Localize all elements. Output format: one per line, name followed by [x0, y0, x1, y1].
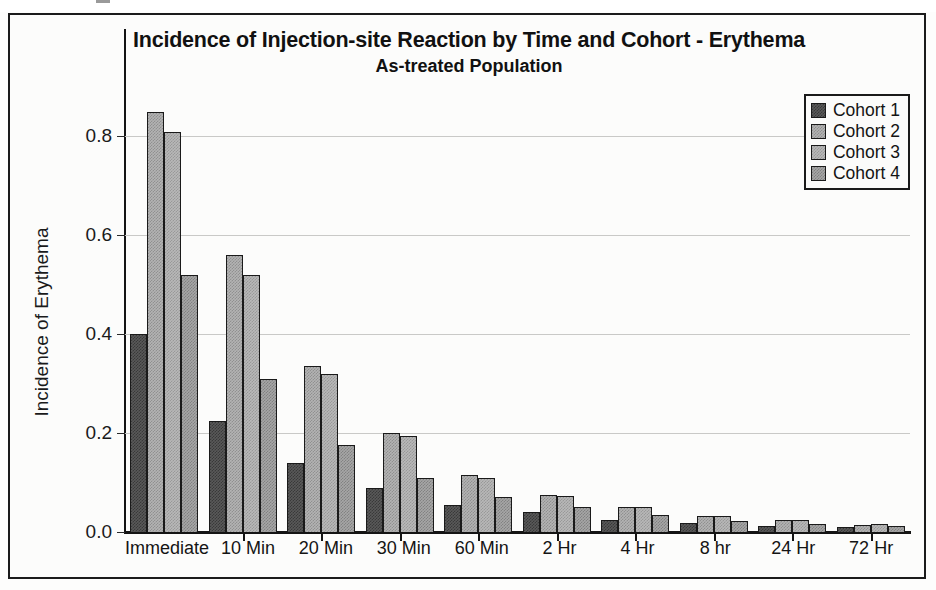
bar[interactable]	[540, 495, 557, 532]
bar[interactable]	[304, 366, 321, 532]
bar[interactable]	[495, 497, 512, 532]
legend-item[interactable]: Cohort 3	[811, 142, 900, 163]
bar[interactable]	[557, 496, 574, 532]
bar[interactable]	[243, 275, 260, 532]
bar-group	[125, 87, 204, 532]
x-axis-tick-label: 2 Hr	[521, 538, 599, 559]
bar[interactable]	[417, 478, 434, 532]
bar[interactable]	[366, 488, 383, 533]
scan-top-margin	[0, 0, 936, 12]
bar[interactable]	[854, 525, 871, 532]
bar-group	[361, 87, 440, 532]
bar[interactable]	[601, 520, 618, 532]
legend-swatch-icon	[811, 145, 826, 160]
x-axis-tick-label: 72 Hr	[832, 538, 910, 559]
bar[interactable]	[888, 526, 905, 532]
bar[interactable]	[287, 463, 304, 532]
legend-item[interactable]: Cohort 2	[811, 121, 900, 142]
x-axis-tick-labels: Immediate10 Min20 Min30 Min60 Min2 Hr4 H…	[125, 538, 910, 559]
plot-area: 0.00.20.40.60.8	[125, 87, 910, 532]
x-axis-tick-label: 24 Hr	[754, 538, 832, 559]
chart-title: Incidence of Injection-site Reaction by …	[10, 28, 928, 53]
bar-group	[596, 87, 675, 532]
x-axis-tick-label: Immediate	[125, 538, 209, 559]
legend-label: Cohort 4	[833, 163, 900, 184]
x-axis-tick-label: 20 Min	[287, 538, 365, 559]
chart-page: Incidence of Injection-site Reaction by …	[0, 0, 936, 590]
bar[interactable]	[226, 255, 243, 532]
bar[interactable]	[652, 515, 669, 532]
bar[interactable]	[731, 521, 748, 532]
title-block: Incidence of Injection-site Reaction by …	[10, 28, 928, 77]
bar[interactable]	[130, 334, 147, 532]
bar[interactable]	[478, 478, 495, 532]
bar[interactable]	[164, 132, 181, 533]
bar-groups	[125, 87, 910, 532]
x-axis-tick-label: 60 Min	[443, 538, 521, 559]
y-axis-tick-label: 0.8	[66, 125, 124, 147]
bar[interactable]	[775, 520, 792, 532]
y-axis-tick-label: 0.4	[66, 323, 124, 345]
legend-item[interactable]: Cohort 1	[811, 100, 900, 121]
bar[interactable]	[618, 507, 635, 532]
bar[interactable]	[758, 526, 775, 532]
bar-group	[675, 87, 754, 532]
bar[interactable]	[680, 523, 697, 532]
bar[interactable]	[714, 516, 731, 532]
bar[interactable]	[181, 275, 198, 532]
legend-swatch-icon	[811, 124, 826, 139]
y-axis-tick-label: 0.6	[66, 224, 124, 246]
x-axis-tick-label: 10 Min	[209, 538, 287, 559]
legend[interactable]: Cohort 1Cohort 2Cohort 3Cohort 4	[804, 94, 910, 190]
bar-group	[518, 87, 597, 532]
bar-group	[439, 87, 518, 532]
bar[interactable]	[383, 433, 400, 532]
chart-subtitle: As-treated Population	[10, 56, 928, 77]
chart-frame: Incidence of Injection-site Reaction by …	[8, 13, 926, 579]
bar[interactable]	[697, 516, 714, 532]
legend-swatch-icon	[811, 103, 826, 118]
bar-group	[282, 87, 361, 532]
legend-label: Cohort 3	[833, 142, 900, 163]
y-axis-tick-label: 0.2	[66, 422, 124, 444]
x-axis-tick-label: 4 Hr	[599, 538, 677, 559]
bar[interactable]	[209, 421, 226, 532]
bar-group	[204, 87, 283, 532]
legend-item[interactable]: Cohort 4	[811, 163, 900, 184]
bar[interactable]	[444, 505, 461, 532]
scan-artifact-tick	[96, 0, 110, 3]
bar[interactable]	[147, 112, 164, 532]
bar[interactable]	[792, 520, 809, 532]
x-axis-tick-label: 8 hr	[676, 538, 754, 559]
x-axis-tick-label: 30 Min	[365, 538, 443, 559]
legend-label: Cohort 2	[833, 121, 900, 142]
bar[interactable]	[837, 527, 854, 532]
bar[interactable]	[321, 374, 338, 532]
bar[interactable]	[871, 524, 888, 532]
legend-label: Cohort 1	[833, 100, 900, 121]
y-axis-tick-label: 0.0	[66, 521, 124, 543]
bar[interactable]	[809, 524, 826, 532]
bar[interactable]	[574, 507, 591, 532]
legend-swatch-icon	[811, 166, 826, 181]
bar[interactable]	[400, 436, 417, 532]
bar[interactable]	[260, 379, 277, 532]
bar[interactable]	[338, 445, 355, 532]
bar[interactable]	[523, 512, 540, 532]
bar[interactable]	[635, 507, 652, 532]
y-axis-title: Incidence of Erythema	[31, 142, 53, 502]
bar[interactable]	[461, 475, 478, 532]
